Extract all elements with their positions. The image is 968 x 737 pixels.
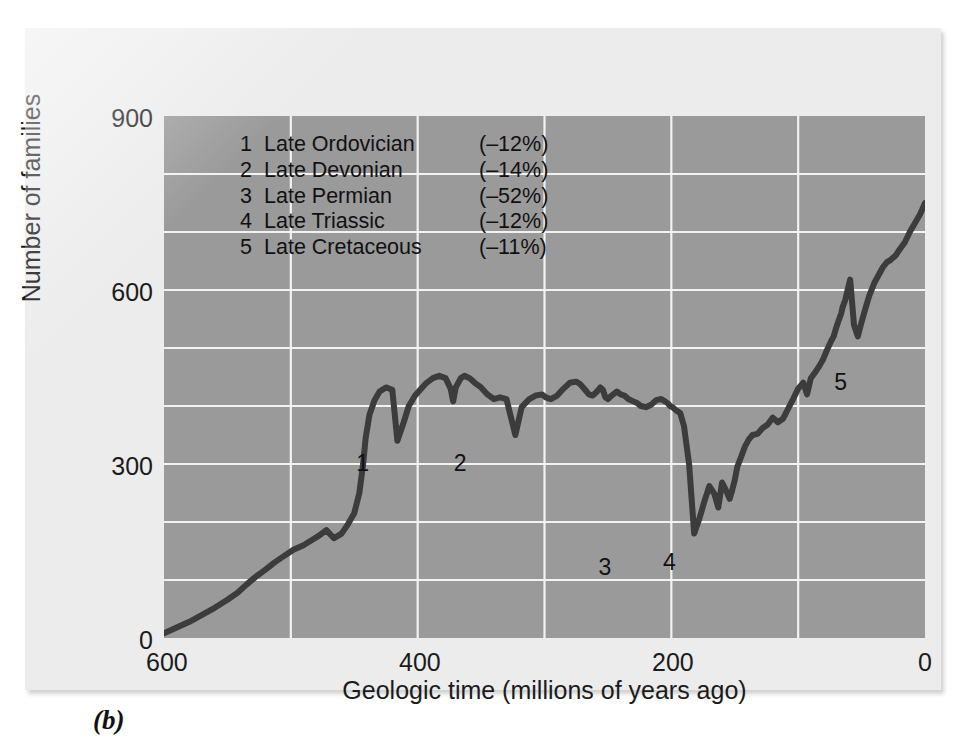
event-marker-3: 3 xyxy=(598,556,611,579)
legend-number: 2 xyxy=(240,158,264,184)
x-axis-title: Geologic time (millions of years ago) xyxy=(164,678,925,703)
legend-event-name: Late Triassic xyxy=(264,209,479,235)
legend-number: 3 xyxy=(240,184,264,210)
legend-event-name: Late Permian xyxy=(264,184,479,210)
legend-row: 3 Late Permian (–52%) xyxy=(240,184,548,210)
figure-card: 900 600 300 0 600 400 200 0 Number of fa… xyxy=(25,28,941,690)
y-tick-label-900: 900 xyxy=(103,106,153,131)
x-tick-label-400: 400 xyxy=(399,650,441,675)
legend-row: 1 Late Ordovician (–12%) xyxy=(240,132,548,158)
legend-number: 1 xyxy=(240,132,264,158)
event-marker-2: 2 xyxy=(454,452,467,475)
x-tick-label-600: 600 xyxy=(146,650,188,675)
figure-root: 900 600 300 0 600 400 200 0 Number of fa… xyxy=(0,0,968,737)
legend-row: 2 Late Devonian (–14%) xyxy=(240,158,548,184)
legend-row: 5 Late Cretaceous (–11%) xyxy=(240,235,548,261)
legend-row: 4 Late Triassic (–12%) xyxy=(240,209,548,235)
y-tick-label-300: 300 xyxy=(103,454,153,479)
legend-event-name: Late Devonian xyxy=(264,158,479,184)
legend-percent: (–14%) xyxy=(479,158,548,184)
legend-number: 5 xyxy=(240,235,264,261)
legend-event-name: Late Cretaceous xyxy=(264,235,479,261)
panel-letter: (b) xyxy=(93,707,124,734)
legend-percent: (–11%) xyxy=(479,235,547,261)
legend-number: 4 xyxy=(240,209,264,235)
legend-event-name: Late Ordovician xyxy=(264,132,479,158)
event-marker-5: 5 xyxy=(834,371,847,394)
y-tick-label-600: 600 xyxy=(103,280,153,305)
x-tick-label-200: 200 xyxy=(652,650,694,675)
legend-percent: (–12%) xyxy=(479,209,548,235)
legend: 1 Late Ordovician (–12%) 2 Late Devonian… xyxy=(240,132,548,261)
y-axis-title: Number of families xyxy=(19,68,44,328)
legend-percent: (–12%) xyxy=(479,132,548,158)
x-tick-label-0: 0 xyxy=(918,650,932,675)
event-marker-4: 4 xyxy=(663,551,676,574)
legend-percent: (–52%) xyxy=(479,184,548,210)
event-marker-1: 1 xyxy=(356,452,369,475)
